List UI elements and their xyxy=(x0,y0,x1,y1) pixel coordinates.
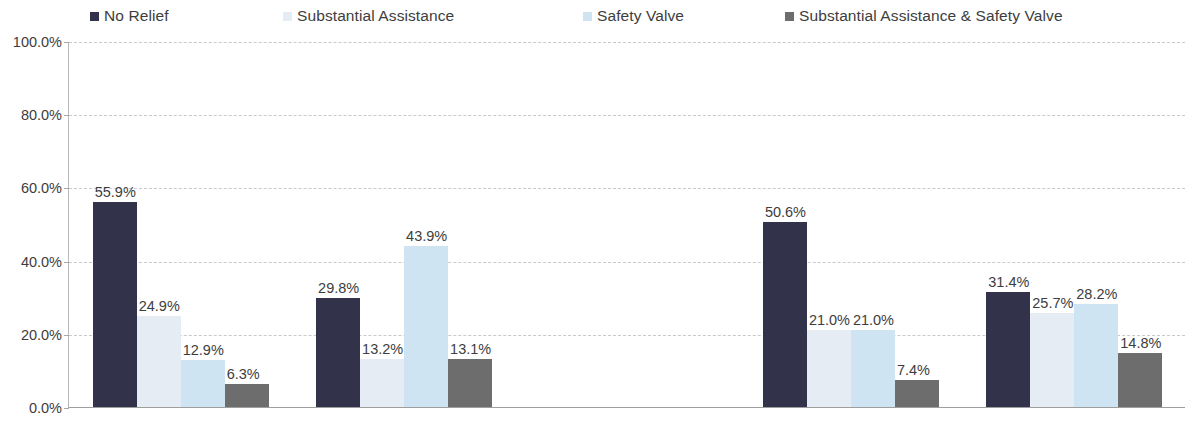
gridline xyxy=(69,188,1185,189)
legend-label-substantial-assistance: Substantial Assistance xyxy=(297,7,454,25)
bar-value-label: 6.3% xyxy=(227,367,260,382)
bar-value-label: 21.0% xyxy=(809,313,850,328)
legend-label-no-relief: No Relief xyxy=(104,7,169,25)
gridline xyxy=(69,42,1185,43)
y-axis-label: 20.0% xyxy=(0,327,62,343)
legend-swatch-no-relief xyxy=(90,12,99,21)
bar[interactable] xyxy=(93,202,137,407)
bar[interactable] xyxy=(1074,304,1118,407)
bar[interactable] xyxy=(807,330,851,407)
bar[interactable] xyxy=(763,222,807,407)
bar-value-label: 7.4% xyxy=(897,363,930,378)
bar[interactable] xyxy=(225,384,269,407)
bar-value-label: 29.8% xyxy=(318,281,359,296)
y-axis-tick xyxy=(64,42,69,43)
legend-swatch-safety-valve xyxy=(583,12,592,21)
y-axis-tick xyxy=(64,262,69,263)
legend-swatch-substantial-assistance xyxy=(283,12,292,21)
y-axis-tick xyxy=(64,188,69,189)
y-axis-label: 100.0% xyxy=(0,34,62,50)
y-axis-label: 40.0% xyxy=(0,254,62,270)
bar[interactable] xyxy=(181,360,225,407)
legend-item-substantial-assistance[interactable]: Substantial Assistance xyxy=(283,7,454,25)
bar[interactable] xyxy=(360,359,404,407)
legend-label-safety-valve: Safety Valve xyxy=(597,7,684,25)
bar[interactable] xyxy=(1118,353,1162,407)
bar-value-label: 50.6% xyxy=(765,205,806,220)
bar[interactable] xyxy=(986,292,1030,407)
y-axis-label: 60.0% xyxy=(0,180,62,196)
gridline xyxy=(69,115,1185,116)
bar[interactable] xyxy=(316,298,360,407)
chart-legend: No Relief Substantial Assistance Safety … xyxy=(0,0,1190,36)
legend-item-substantial-assistance-and-safety-valve[interactable]: Substantial Assistance & Safety Valve xyxy=(785,7,1063,25)
bar[interactable] xyxy=(1030,313,1074,407)
bar-value-label: 14.8% xyxy=(1120,336,1161,351)
legend-label-substantial-assistance-and-safety-valve: Substantial Assistance & Safety Valve xyxy=(799,7,1063,25)
bar-value-label: 55.9% xyxy=(95,185,136,200)
y-axis-label: 80.0% xyxy=(0,107,62,123)
gridline xyxy=(69,262,1185,263)
bar-value-label: 43.9% xyxy=(406,229,447,244)
bar-chart: No Relief Substantial Assistance Safety … xyxy=(0,0,1190,432)
bar[interactable] xyxy=(137,316,181,407)
bar-value-label: 25.7% xyxy=(1032,296,1073,311)
bar-value-label: 13.2% xyxy=(362,342,403,357)
bar-value-label: 21.0% xyxy=(853,313,894,328)
legend-swatch-substantial-assistance-and-safety-valve xyxy=(785,12,794,21)
plot-area: 55.9%24.9%12.9%6.3%29.8%13.2%43.9%13.1%5… xyxy=(68,42,1185,408)
bar-value-label: 13.1% xyxy=(450,342,491,357)
bar[interactable] xyxy=(448,359,492,407)
y-axis-tick xyxy=(64,335,69,336)
bar-value-label: 24.9% xyxy=(139,299,180,314)
y-axis-tick xyxy=(64,115,69,116)
legend-item-no-relief[interactable]: No Relief xyxy=(90,7,169,25)
y-axis-label: 0.0% xyxy=(0,400,62,416)
bar-value-label: 12.9% xyxy=(183,343,224,358)
bar-value-label: 31.4% xyxy=(988,275,1029,290)
y-axis-tick xyxy=(64,408,69,409)
bar-value-label: 28.2% xyxy=(1076,287,1117,302)
legend-item-safety-valve[interactable]: Safety Valve xyxy=(583,7,684,25)
bar[interactable] xyxy=(895,380,939,407)
bar[interactable] xyxy=(404,246,448,407)
bar[interactable] xyxy=(851,330,895,407)
